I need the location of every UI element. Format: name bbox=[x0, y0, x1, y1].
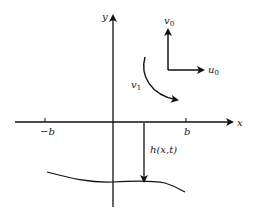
y-axis-label: y bbox=[101, 11, 108, 22]
depth-label: h(x,t) bbox=[150, 144, 177, 155]
v0-label: v0 bbox=[164, 15, 174, 28]
tick-label-pos-b: b bbox=[184, 126, 190, 137]
tick-label-neg-b: −b bbox=[40, 126, 55, 137]
bottom-surface-curve bbox=[47, 172, 185, 192]
v1-label: v1 bbox=[131, 79, 141, 92]
x-axis-label: x bbox=[237, 117, 243, 128]
diagram-canvas: x y −b b v0 u0 v1 h(x,t) bbox=[0, 0, 258, 221]
u0-label: u0 bbox=[208, 64, 219, 77]
v1-curved-arrow bbox=[144, 57, 177, 100]
